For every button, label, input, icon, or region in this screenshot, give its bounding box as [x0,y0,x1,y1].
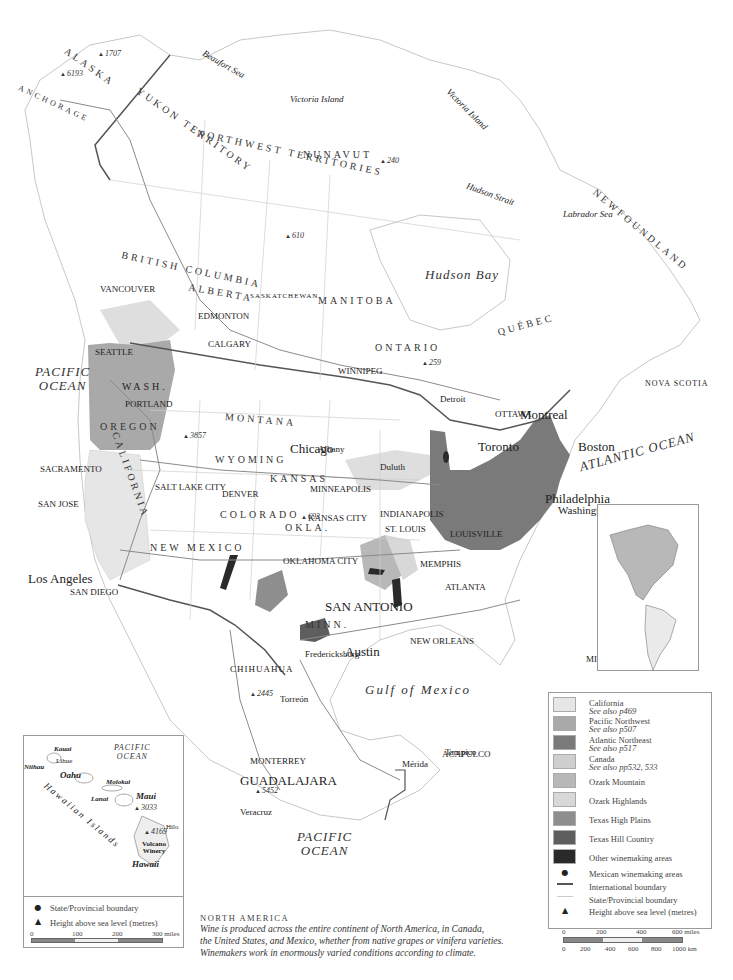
label-guadalajara: MONTERREY [250,757,306,766]
label-oregon: OREGON [100,422,160,432]
label-dallas: SAN ANTONIO [325,600,413,613]
peak-240: 240 [380,157,399,165]
swatch-ozark-mountain [553,773,576,788]
scale-mi-0: 0 [562,928,566,936]
triangle-icon: ▲ [557,906,573,915]
label-labrador-sea: Labrador Sea [563,210,613,219]
legend-international-boundary: International boundary [589,883,667,891]
peak-610: 610 [285,232,304,240]
label-vancouver: VANCOUVER [100,285,155,294]
scale-mi-200: 200 [596,928,607,936]
label-gulf-of-mexico: Gulf of Mexico [365,683,471,697]
h-scale-mi-100: 100 [72,930,83,938]
label-omaha: MINNEAPOLIS [310,485,371,494]
peak-259: 259 [422,359,441,367]
map-legend: CaliforniaSee also p469 Pacific Northwes… [548,692,712,929]
peak-2445: 2445 [250,690,273,698]
label-calgary: CALGARY [208,340,251,349]
label-nunavut: NUNAVUT [303,150,372,160]
label-seattle: SEATTLE [95,348,133,357]
peak-1707: 1707 [98,50,121,58]
label-pacific-ocean-north: PACIFICOCEAN [35,365,90,394]
scale-km-200: 200 [580,945,591,953]
label-ottawa: OTTAWA [495,410,532,419]
hawaii-legend-height: Height above sea level (metres) [50,919,158,927]
label-san-diego: SAN DIEGO [70,588,118,597]
label-hilo: Hilo [166,824,178,831]
legend-atlantic-northeast: Atlantic NortheastSee also p517 [589,736,652,752]
label-minneapolis: Albany [318,445,345,454]
label-winnipeg: WINNIPEG [338,367,383,376]
swatch-ozark-highlands [553,792,576,807]
label-victoria-island: Victoria Island [290,95,344,104]
label-kauai: Kauai [54,746,72,753]
locator-north-america [610,525,678,600]
legend-california: CaliforniaSee also p469 [589,699,636,715]
label-hudson-bay: Hudson Bay [425,268,499,282]
caption-line-2: the United States, and Mexico, whether f… [200,935,550,947]
label-chihuahua: CHIHUAHUA [230,665,294,674]
caption-line-1: Wine is produced across the entire conti… [200,923,550,935]
h-scale-mi-200: 200 [112,930,123,938]
legend-state-boundary: State/Provincial boundary [589,896,678,904]
hawaii-legend: ● State/Provincial boundary ▲ Height abo… [24,896,183,948]
legend-ozark-mountain: Ozark Mountain [589,778,645,786]
region-other-wisconsin [443,451,449,463]
label-molokai: Molokai [106,779,130,786]
label-manitoba: MANITOBA [318,296,396,306]
label-saskatchewan: SASKATCHEWAN [250,293,318,300]
label-villahermosa: Mérida [402,760,428,769]
label-ontario: ONTARIO [375,343,440,353]
state-boundary-icon [557,892,573,897]
label-salt-lake-city: SALT LAKE CITY [155,483,226,492]
h-scale-mi-0: 0 [30,930,34,938]
scale-km-800: 800 [651,945,662,953]
swatch-california [553,697,576,712]
peak-3857: 3857 [183,432,206,440]
peak-5452: 5452 [255,787,278,795]
label-sacramento: SACRAMENTO [40,465,102,474]
scale-bar [563,937,683,943]
label-niihau: Niihau [24,764,44,771]
label-san-antonio: Fredericksburg [305,650,359,659]
label-acapulco: Veracruz [240,808,272,817]
legend-other: Other winemaking areas [589,854,672,862]
peak-6193: 6193 [60,70,83,78]
label-texas: MINN. [305,620,349,630]
locator-south-america [645,605,676,670]
label-hawaii: Hawaii [132,860,159,869]
legend-ozark-highlands: Ozark Highlands [589,797,647,805]
caption-line-3: Winemakers work in enormously varied con… [200,947,550,959]
scale-km-1000: 1000 km [672,945,697,953]
label-wyoming: WYOMING [215,455,287,465]
label-milwaukee: Duluth [380,463,405,472]
scale-mi-400: 400 [636,928,647,936]
hawaii-scale-bar [31,938,163,943]
island-maui [115,794,133,806]
label-edmonton: EDMONTON [198,312,249,321]
label-indianapolis: INDIANAPOLIS [380,510,444,519]
dot-icon: ● [30,903,46,912]
triangle-icon: ▲ [30,917,46,926]
label-wash: WASH. [122,382,168,392]
swatch-canada [553,754,576,769]
dot-icon: ● [557,868,573,877]
h-scale-mi-300: 300 miles [152,930,179,938]
label-louisville: LOUISVILLE [450,530,503,539]
swatch-texas-hill-country [553,830,576,845]
label-lihue: Lihue [56,758,72,765]
label-portland: PORTLAND [125,400,172,409]
label-new-orleans: NEW ORLEANS [410,637,474,646]
international-boundary-icon [557,879,573,885]
label-kansas: OKLA. [285,523,330,533]
legend-canada: CanadaSee also pp532, 533 [589,755,657,771]
label-st-louis: ST. LOUIS [385,525,426,534]
label-denver: DENVER [222,490,259,499]
swatch-other [553,849,576,864]
label-cancun: Tampico [445,748,476,757]
label-mexico-city: GUADALAJARA [240,774,337,787]
scale-mi-600: 600 miles [672,928,699,936]
peak-4169: 4169 [144,828,167,836]
label-maui: Maui [136,792,156,801]
legend-height: Height above sea level (metres) [589,908,697,916]
